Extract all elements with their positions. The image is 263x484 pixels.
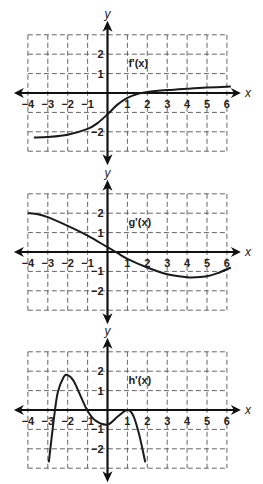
y-tick-label: −2 <box>91 443 104 455</box>
function-label: h'(x) <box>128 374 151 386</box>
y-tick-label: 1 <box>97 68 103 80</box>
x-tick-label: 5 <box>204 415 210 427</box>
x-tick-label: 4 <box>184 257 191 269</box>
x-tick-label: 6 <box>224 257 230 269</box>
x-tick-label: 5 <box>204 98 210 110</box>
x-tick-label: 3 <box>164 415 170 427</box>
x-tick-label: −4 <box>22 98 35 110</box>
x-axis-label: x <box>244 403 252 417</box>
graph-gx: xy−4−3−2−112345621−1−2g'(x) <box>14 166 252 324</box>
y-tick-label: 2 <box>97 207 103 219</box>
x-tick-label: −1 <box>81 98 94 110</box>
x-tick-label: 5 <box>204 257 210 269</box>
x-tick-label: −2 <box>61 98 74 110</box>
y-tick-label: 2 <box>97 365 103 377</box>
x-tick-label: 2 <box>144 98 150 110</box>
y-axis-label: y <box>104 324 112 338</box>
x-tick-label: −3 <box>42 257 55 269</box>
y-tick-label: 1 <box>97 227 103 239</box>
x-tick-label: 6 <box>224 98 230 110</box>
graph-hx: xy−4−3−2−112345621−1−2h'(x) <box>14 324 252 482</box>
x-tick-label: 2 <box>144 415 150 427</box>
y-axis-label: y <box>104 166 112 180</box>
x-tick-label: 3 <box>164 98 170 110</box>
y-tick-label: −1 <box>91 265 104 277</box>
y-tick-label: 2 <box>97 48 103 60</box>
x-axis-label: x <box>244 245 252 259</box>
y-axis-label: y <box>104 7 112 21</box>
x-tick-label: 6 <box>224 415 230 427</box>
x-tick-label: −4 <box>22 257 35 269</box>
function-label: f'(x) <box>128 57 148 69</box>
x-tick-label: 3 <box>164 257 170 269</box>
x-tick-label: −2 <box>61 415 74 427</box>
y-tick-label: −2 <box>91 285 104 297</box>
function-label: g'(x) <box>128 216 151 228</box>
y-tick-label: −1 <box>91 423 104 435</box>
derivative-graphs-figure: xy−4−3−2−112345621−2f'(x)xy−4−3−2−112345… <box>0 0 263 484</box>
x-tick-label: −2 <box>61 257 74 269</box>
x-tick-label: 4 <box>184 415 191 427</box>
x-tick-label: 1 <box>124 415 130 427</box>
x-tick-label: −4 <box>22 415 35 427</box>
x-tick-label: −3 <box>42 98 55 110</box>
x-tick-label: 4 <box>184 98 191 110</box>
y-tick-label: −2 <box>91 126 104 138</box>
x-axis-label: x <box>244 86 252 100</box>
graph-fx: xy−4−3−2−112345621−2f'(x) <box>14 7 252 165</box>
y-tick-label: 1 <box>97 385 103 397</box>
